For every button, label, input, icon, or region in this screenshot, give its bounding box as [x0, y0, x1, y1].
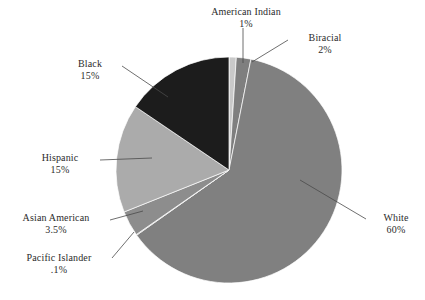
leader-line-biracial [252, 40, 288, 62]
pie-label-biracial-name: Biracial [290, 32, 360, 44]
pie-label-black-value: 15% [60, 70, 120, 82]
pie-label-american-indian: American Indian 1% [186, 6, 306, 30]
pie-label-black: Black 15% [60, 58, 120, 82]
pie-chart-figure: American Indian 1% Biracial 2% Black 15%… [0, 0, 425, 300]
pie-label-black-name: Black [60, 58, 120, 70]
pie-label-white: White 60% [370, 212, 422, 236]
pie-label-asian-american: Asian American 3.5% [4, 212, 108, 236]
pie-label-hispanic-value: 15% [22, 164, 98, 176]
pie-label-pacific-islander-value: .1% [4, 264, 114, 276]
pie-label-asian-american-name: Asian American [4, 212, 108, 224]
pie-label-hispanic: Hispanic 15% [22, 152, 98, 176]
pie-label-pacific-islander: Pacific Islander .1% [4, 252, 114, 276]
leader-line-pacific-islander [112, 232, 134, 258]
pie-label-asian-american-value: 3.5% [4, 224, 108, 236]
pie-label-white-value: 60% [370, 224, 422, 236]
pie-label-biracial-value: 2% [290, 44, 360, 56]
pie-slices [116, 57, 342, 283]
pie-label-pacific-islander-name: Pacific Islander [4, 252, 114, 264]
pie-label-biracial: Biracial 2% [290, 32, 360, 56]
pie-label-hispanic-name: Hispanic [22, 152, 98, 164]
pie-label-american-indian-name: American Indian [186, 6, 306, 18]
pie-label-american-indian-value: 1% [186, 18, 306, 30]
pie-label-white-name: White [370, 212, 422, 224]
